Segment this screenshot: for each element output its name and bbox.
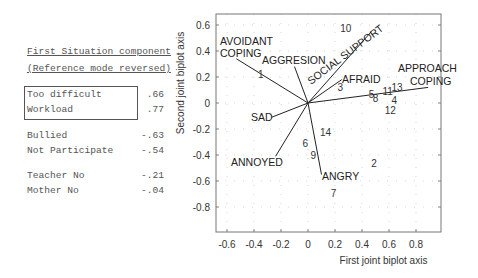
x-tick-label: 0.6	[382, 239, 396, 250]
y-tick-label: 0.4	[196, 46, 210, 57]
vector-label: COPING	[220, 47, 261, 59]
y-tick-label: -0.2	[193, 124, 211, 135]
y-tick-label: -0.4	[193, 150, 211, 161]
x-tick-label: -0.6	[218, 239, 236, 250]
biplot-vector	[295, 67, 309, 103]
vector-label: ANGRY	[322, 170, 359, 182]
y-axis-title: Second joint biplot axis	[175, 32, 186, 134]
y-tick-label: -0.6	[193, 176, 211, 187]
biplot-vector	[272, 103, 308, 117]
data-point-label: 10	[340, 23, 352, 34]
x-tick-label: -0.2	[272, 239, 290, 250]
vector-label: AFRAID	[342, 73, 381, 85]
y-tick-label: -0.8	[193, 202, 211, 213]
y-tick-label: 0	[204, 98, 210, 109]
vector-label: AGGRESION	[262, 54, 326, 66]
y-tick-label: 0.6	[196, 20, 210, 31]
data-point-label: 8	[373, 93, 379, 104]
data-point-label: 13	[392, 82, 404, 93]
vector-label: AVOIDANT	[220, 35, 273, 47]
y-tick-label: 0.2	[196, 72, 210, 83]
x-tick-label: 0.2	[328, 239, 342, 250]
vector-label: APPROACH	[398, 62, 457, 74]
x-tick-label: 0	[305, 239, 311, 250]
data-point-label: 6	[303, 138, 309, 149]
x-tick-label: 0.8	[409, 239, 423, 250]
data-point-label: 3	[338, 82, 344, 93]
biplot: -0.6-0.4-0.200.20.40.60.80.60.40.20-0.2-…	[0, 0, 478, 278]
data-point-label: 1	[258, 69, 264, 80]
x-tick-label: -0.4	[245, 239, 263, 250]
x-axis-title: First joint biplot axis	[340, 255, 428, 266]
vector-label: COPING	[410, 75, 451, 87]
data-point-label: 9	[311, 150, 317, 161]
data-point-label: 2	[371, 158, 377, 169]
data-point-label: 12	[385, 105, 397, 116]
vector-label: ANNOYED	[231, 156, 283, 168]
data-point-label: 7	[331, 188, 337, 199]
x-tick-label: 0.4	[355, 239, 369, 250]
biplot-vector	[308, 103, 322, 175]
vector-label: SAD	[251, 111, 273, 123]
data-point-label: 14	[320, 127, 332, 138]
